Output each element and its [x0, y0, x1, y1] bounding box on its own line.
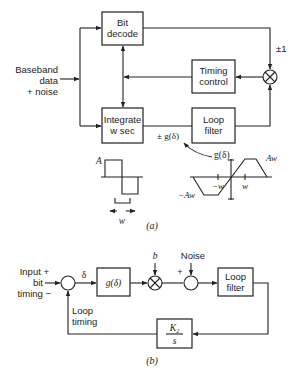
pulse-amplitude-label: A — [95, 156, 102, 166]
bit-decode-label-1: Bit — [117, 17, 128, 28]
g-curve-neg-tick-label: −w — [212, 181, 224, 191]
g-delta-block-label: g(δ) — [106, 278, 122, 289]
timing-control-label-1: Timing — [199, 65, 227, 76]
loop-filter-a-label-2: filter — [205, 125, 223, 136]
integrate-label-2: w sec — [109, 125, 135, 136]
part-b: Input + bit timing − δ g(δ) b Noise + Lo… — [17, 250, 268, 367]
g-curve-pos-tick-label: w — [242, 181, 248, 191]
loop-filter-b-label-1: Loop — [225, 271, 246, 282]
g-curve-pos-peak: Aw — [265, 153, 277, 163]
input-label-b-2: bit — [33, 277, 43, 288]
input-label-line3: + noise — [27, 86, 58, 97]
input-label-b-3: timing − — [17, 288, 51, 299]
pulse-bracket — [115, 198, 130, 203]
part-a: Baseband data + noise Bit decode Integra… — [15, 12, 286, 232]
b-label: b — [153, 251, 158, 261]
summing-junction-1 — [61, 276, 75, 290]
g-curve-title: g(δ) — [214, 150, 230, 161]
g-curve-neg-peak: −Aw — [178, 190, 195, 200]
feedback-label-2: timing — [72, 316, 97, 327]
timing-recovery-diagram: Baseband data + noise Bit decode Integra… — [0, 0, 292, 375]
curved-pointer-arrow — [184, 143, 212, 157]
loop-filter-a-label-1: Loop — [203, 114, 224, 125]
plus-label: + — [177, 267, 182, 277]
loop-filter-to-multiplier — [235, 85, 270, 126]
pulse-width-label: w — [119, 216, 126, 226]
integrate-label-1: Integrate — [104, 114, 142, 125]
loop-filter-b-label-2: filter — [227, 282, 245, 293]
integrator-denominator: s — [173, 336, 177, 346]
delta-label: δ — [82, 270, 87, 280]
input-label-line2: data — [40, 75, 59, 86]
caption-b: (b) — [146, 355, 158, 367]
noise-label: Noise — [181, 250, 205, 261]
feedback-label-1: Loop — [72, 305, 93, 316]
bit-decode-label-2: decode — [107, 28, 138, 39]
input-label-line1: Baseband — [15, 64, 58, 75]
caption-a: (a) — [146, 220, 158, 232]
g-delta-curve: g(δ) Aw −Aw −w w — [178, 150, 277, 200]
summing-junction-2 — [184, 276, 198, 290]
pulse-waveform: A w — [95, 156, 143, 226]
timing-control-label-2: control — [199, 76, 228, 87]
sign-label: ±1 — [276, 43, 287, 54]
input-label-b-1: Input + — [20, 266, 50, 277]
error-label: ± g(δ) — [157, 131, 179, 141]
integrator-numerator: K₂ — [169, 323, 180, 333]
